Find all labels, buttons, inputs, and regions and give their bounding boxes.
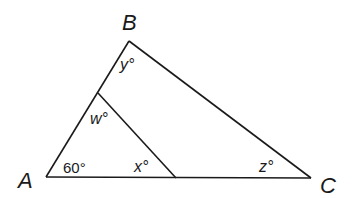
angle-label-a: 60° — [63, 159, 86, 176]
vertex-label-a: A — [16, 168, 33, 193]
angle-label-x: x° — [133, 158, 149, 175]
side-ab — [46, 41, 129, 177]
angle-label-y: y° — [119, 56, 135, 73]
vertex-label-b: B — [122, 10, 137, 35]
side-ac — [46, 177, 311, 178]
vertex-label-c: C — [320, 173, 336, 198]
angle-label-z: z° — [258, 158, 274, 175]
triangle-diagram: B A C 60° w° x° y° z° — [0, 0, 361, 198]
angle-label-w: w° — [90, 110, 109, 127]
